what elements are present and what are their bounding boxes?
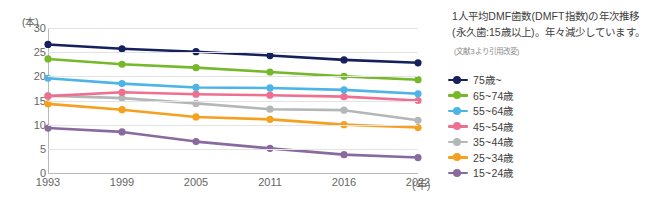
data-point — [118, 128, 125, 135]
legend-label: 25~34歳 — [473, 150, 514, 165]
legend-label: 55~64歳 — [473, 103, 514, 118]
data-point — [44, 93, 51, 100]
legend-item[interactable]: 15~24歳 — [448, 165, 598, 181]
plot-area — [48, 28, 418, 173]
legend-marker-icon — [448, 136, 468, 148]
chart-caption: 1人平均DMF歯数(DMFT指数)の年次推移 (永久歯:15歳以上)。年々減少し… — [452, 8, 668, 41]
chart-area: (本) 051015202530 19931999200520112016202… — [0, 0, 440, 205]
data-point — [340, 86, 347, 93]
y-axis-tick: 25 — [8, 46, 46, 58]
gridline — [48, 125, 418, 126]
data-point — [44, 41, 51, 48]
legend-marker-icon — [448, 74, 468, 86]
data-point — [266, 106, 273, 113]
data-point — [118, 89, 125, 96]
caption-subtitle: (永久歯:15歳以上)。年々減少しています。 — [452, 24, 668, 40]
data-point — [266, 92, 273, 99]
data-point — [340, 151, 347, 158]
data-point — [414, 59, 421, 66]
data-point — [118, 61, 125, 68]
x-axis-tick: 1993 — [36, 176, 60, 188]
gridline — [48, 76, 418, 77]
x-axis-unit-label: (年) — [412, 176, 430, 192]
description-panel: 1人平均DMF歯数(DMFT指数)の年次推移 (永久歯:15歳以上)。年々減少し… — [452, 0, 668, 205]
legend-item[interactable]: 75歳~ — [448, 72, 598, 88]
legend-marker-icon — [448, 167, 468, 179]
data-point — [414, 90, 421, 97]
data-point — [44, 55, 51, 62]
legend-label: 75歳~ — [473, 72, 502, 87]
caption-title: 1人平均DMF歯数(DMFT指数)の年次推移 — [452, 8, 668, 24]
legend-item[interactable]: 45~54歳 — [448, 119, 598, 135]
y-axis-tick: 30 — [8, 22, 46, 34]
gridline — [48, 28, 418, 29]
data-point — [266, 84, 273, 91]
data-point — [118, 106, 125, 113]
legend-marker-icon — [448, 120, 468, 132]
x-axis-tick: 1999 — [110, 176, 134, 188]
legend-item[interactable]: 25~34歳 — [448, 150, 598, 166]
series-line — [48, 78, 418, 93]
legend-marker-icon — [448, 151, 468, 163]
y-axis-tick-labels: 051015202530 — [0, 0, 46, 205]
legend-marker-icon — [448, 105, 468, 117]
y-axis-tick: 20 — [8, 70, 46, 82]
data-point — [192, 91, 199, 98]
legend-label: 45~54歳 — [473, 119, 514, 134]
data-point — [266, 116, 273, 123]
source-note: (文献3より引用改変) — [454, 45, 519, 56]
data-point — [192, 84, 199, 91]
x-axis-tick: 2011 — [258, 176, 282, 188]
series-line — [48, 44, 418, 62]
legend-label: 65~74歳 — [473, 88, 514, 103]
data-point — [118, 80, 125, 87]
legend-item[interactable]: 65~74歳 — [448, 88, 598, 104]
gridline — [48, 149, 418, 150]
x-axis-tick: 2016 — [332, 176, 356, 188]
gridline — [48, 101, 418, 102]
y-axis-tick: 10 — [8, 119, 46, 131]
data-point — [192, 113, 199, 120]
legend-item[interactable]: 55~64歳 — [448, 103, 598, 119]
y-axis-tick: 15 — [8, 95, 46, 107]
legend-label: 35~44歳 — [473, 134, 514, 149]
data-point — [414, 117, 421, 124]
data-point — [192, 138, 199, 145]
legend-label: 15~24歳 — [473, 165, 514, 180]
chart-legend: 75歳~65~74歳55~64歳45~54歳35~44歳25~34歳15~24歳 — [448, 72, 598, 181]
y-axis-tick: 5 — [8, 143, 46, 155]
series-line — [48, 128, 418, 157]
chart-figure: (本) 051015202530 19931999200520112016202… — [0, 0, 668, 205]
data-point — [340, 93, 347, 100]
x-axis-tick: 2005 — [184, 176, 208, 188]
gridline — [48, 52, 418, 53]
legend-item[interactable]: 35~44歳 — [448, 134, 598, 150]
data-point — [192, 64, 199, 71]
data-point — [414, 154, 421, 161]
x-axis-line — [48, 173, 418, 174]
data-point — [340, 56, 347, 63]
data-point — [266, 68, 273, 75]
legend-marker-icon — [448, 89, 468, 101]
data-point — [340, 107, 347, 114]
